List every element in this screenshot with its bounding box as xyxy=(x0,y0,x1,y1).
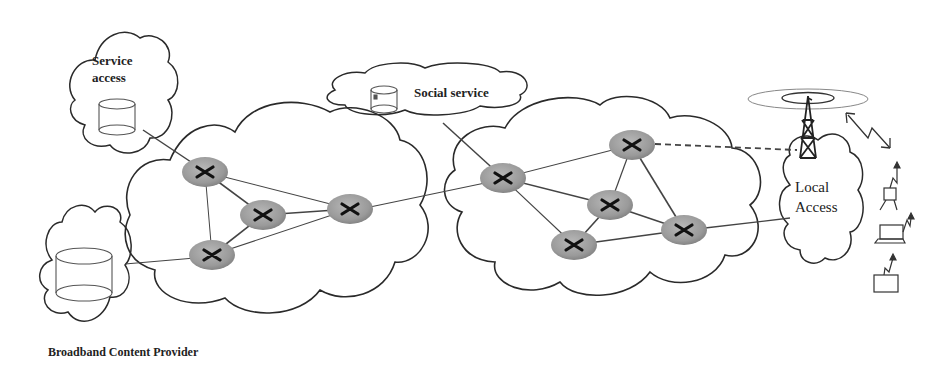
service-access-label: Service access xyxy=(92,52,132,86)
wireless-link-icon xyxy=(846,113,890,148)
local-access-label-line2: Access xyxy=(795,197,837,217)
service-access-label-line2: access xyxy=(92,69,132,86)
terminal-device-icon xyxy=(874,254,898,292)
broadband-content-provider-cloud xyxy=(40,205,131,321)
router-R3 xyxy=(587,190,633,220)
local-access-label-line1: Local xyxy=(795,177,837,197)
router-R5 xyxy=(661,215,707,245)
social-service-label: Social service xyxy=(414,85,489,101)
router-L2 xyxy=(240,200,286,230)
router-R4 xyxy=(551,230,597,260)
social-service-database-icon xyxy=(371,86,397,113)
router-L4 xyxy=(189,240,235,270)
service-access-label-line1: Service xyxy=(92,52,132,69)
router-R2 xyxy=(609,130,655,160)
router-L3 xyxy=(327,194,373,224)
mobile-phone-user-icon xyxy=(880,162,900,210)
service-access-database-icon xyxy=(99,99,135,135)
laptop-icon xyxy=(875,213,914,243)
router-L1 xyxy=(182,157,228,187)
router-R1 xyxy=(480,163,526,193)
broadband-content-provider-label: Broadband Content Provider xyxy=(48,345,198,360)
broadband-database-icon xyxy=(56,248,112,301)
local-access-label: Local Access xyxy=(795,177,837,217)
